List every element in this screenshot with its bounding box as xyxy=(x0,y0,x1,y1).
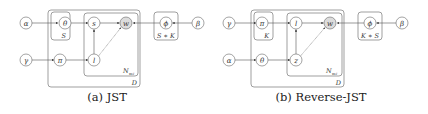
plate-sk-label: S ∗ K xyxy=(157,32,176,40)
node-beta: β xyxy=(396,17,408,29)
plate-ks-label: K ∗ S xyxy=(360,32,379,40)
svg-text:w: w xyxy=(327,20,333,28)
plate-n-label: Nwd xyxy=(325,67,337,76)
node-alpha: α xyxy=(20,17,32,29)
svg-text:β: β xyxy=(195,20,200,28)
reverse-jst-diagram: γ α π θ l z w ϕ β K D Nwd K ∗ S xyxy=(223,10,408,87)
node-phi: ϕ xyxy=(364,17,376,29)
node-l: l xyxy=(290,17,302,29)
plate-n-label: Nwd xyxy=(122,67,134,76)
svg-text:ϕ: ϕ xyxy=(368,20,373,28)
node-pi: π xyxy=(256,17,268,29)
node-s: s xyxy=(88,17,100,29)
plate-d-label: D xyxy=(335,79,342,87)
node-w-observed: w xyxy=(120,17,132,29)
caption-jst: (a) JST xyxy=(0,90,214,104)
svg-text:ϕ: ϕ xyxy=(164,20,169,28)
node-phi: ϕ xyxy=(160,17,172,29)
node-z: z xyxy=(290,54,302,66)
svg-text:s: s xyxy=(92,20,96,28)
svg-text:π: π xyxy=(57,57,63,65)
svg-text:α: α xyxy=(227,57,232,65)
node-gamma: γ xyxy=(223,17,235,29)
svg-text:π: π xyxy=(259,20,265,28)
node-theta: θ xyxy=(256,54,268,66)
svg-text:z: z xyxy=(293,57,298,65)
svg-text:β: β xyxy=(399,20,404,28)
node-pi: π xyxy=(54,54,66,66)
plate-k-label: K xyxy=(263,32,270,40)
svg-text:α: α xyxy=(24,20,29,28)
svg-text:l: l xyxy=(93,57,95,65)
caption-reverse-jst: (b) Reverse-JST xyxy=(214,90,428,104)
plate-d-label: D xyxy=(131,79,138,87)
node-l: l xyxy=(88,54,100,66)
node-alpha: α xyxy=(223,54,235,66)
node-theta: θ xyxy=(59,17,71,29)
node-beta: β xyxy=(192,17,204,29)
plate-s-label: S xyxy=(62,32,67,40)
svg-text:l: l xyxy=(295,20,297,28)
node-w-observed: w xyxy=(324,17,336,29)
jst-diagram: α γ θ π s l w ϕ β S D Nwd S ∗ K xyxy=(20,10,204,87)
node-gamma: γ xyxy=(20,54,32,66)
svg-text:w: w xyxy=(123,20,129,28)
